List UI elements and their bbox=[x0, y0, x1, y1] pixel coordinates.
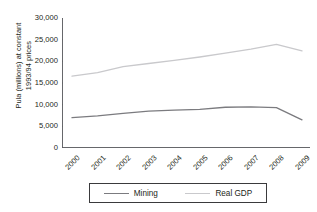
legend-label-real-gdp: Real GDP bbox=[215, 189, 252, 198]
axis-tick-marks bbox=[62, 18, 310, 148]
y-tick-label: 10,000 bbox=[27, 101, 58, 109]
x-tick-label: 2004 bbox=[166, 154, 184, 172]
series-line-mining bbox=[72, 107, 302, 120]
legend-entry-mining: Mining bbox=[104, 189, 158, 198]
series-line-real-gdp bbox=[72, 44, 302, 76]
x-axis-tick-labels: 2000200120022003200420052006200720082009 bbox=[62, 148, 312, 182]
x-tick-label: 2002 bbox=[115, 154, 133, 172]
y-tick-label: 5,000 bbox=[27, 122, 58, 130]
x-tick-label: 2000 bbox=[64, 154, 82, 172]
x-tick-label: 2009 bbox=[294, 154, 312, 172]
legend-label-mining: Mining bbox=[134, 189, 158, 198]
legend-swatch-mining bbox=[104, 193, 129, 194]
x-tick-label: 2003 bbox=[141, 154, 159, 172]
x-tick-label: 2006 bbox=[217, 154, 235, 172]
x-tick-label: 2007 bbox=[243, 154, 261, 172]
x-tick-label: 2008 bbox=[268, 154, 286, 172]
y-axis-title-line-1: Pula (millions) at constant bbox=[14, 0, 24, 136]
y-axis-tick-labels: 30,00025,00020,00015,00010,0005,0000 bbox=[27, 0, 58, 212]
chart-figure: Pula (millions) at constant 1993/94 pric… bbox=[0, 0, 317, 212]
y-tick-label: 0 bbox=[27, 144, 58, 152]
legend-swatch-real-gdp bbox=[185, 193, 210, 194]
x-tick-label: 2005 bbox=[192, 154, 210, 172]
y-tick-label: 30,000 bbox=[27, 14, 58, 22]
plot-area bbox=[62, 18, 310, 148]
y-tick-label: 15,000 bbox=[27, 79, 58, 87]
y-tick-label: 25,000 bbox=[27, 36, 58, 44]
x-tick-label: 2001 bbox=[90, 154, 108, 172]
chart-legend: Mining Real GDP bbox=[89, 183, 267, 203]
y-tick-label: 20,000 bbox=[27, 57, 58, 65]
legend-entry-real-gdp: Real GDP bbox=[185, 189, 252, 198]
plot-svg bbox=[62, 18, 310, 148]
series-group bbox=[72, 44, 302, 119]
